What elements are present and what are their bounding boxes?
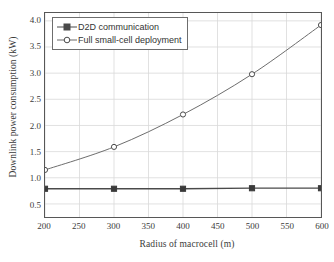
legend-marker-open-circle-icon bbox=[56, 34, 78, 46]
y-axis-tick-labels: 0.51.01.52.02.53.03.54.0 bbox=[0, 12, 41, 218]
x-axis-label: Radius of macrocell (m) bbox=[44, 239, 330, 249]
y-tick-label: 2.5 bbox=[1, 94, 41, 104]
legend-item-small-cell: Full small-cell deployment bbox=[56, 33, 182, 46]
y-tick-label: 4.0 bbox=[1, 15, 41, 25]
legend-label-small-cell: Full small-cell deployment bbox=[78, 34, 182, 46]
x-axis-tick-labels: 200250300350400450500550600 bbox=[44, 221, 322, 235]
y-tick-label: 1.5 bbox=[1, 147, 41, 157]
y-tick-label: 3.0 bbox=[1, 68, 41, 78]
chart-figure: Downlink power consumption (kW) 0.51.01.… bbox=[0, 0, 334, 262]
y-tick-label: 0.5 bbox=[1, 200, 41, 210]
y-tick-label: 1.0 bbox=[1, 173, 41, 183]
legend-item-d2d: D2D communication bbox=[56, 20, 182, 33]
y-tick-label: 2.0 bbox=[1, 121, 41, 131]
x-tick-label: 600 bbox=[300, 221, 334, 232]
y-tick-label: 3.5 bbox=[1, 41, 41, 51]
legend-label-d2d: D2D communication bbox=[78, 21, 159, 33]
legend-marker-filled-square-icon bbox=[56, 21, 78, 33]
chart-legend: D2D communication Full small-cell deploy… bbox=[52, 17, 188, 50]
